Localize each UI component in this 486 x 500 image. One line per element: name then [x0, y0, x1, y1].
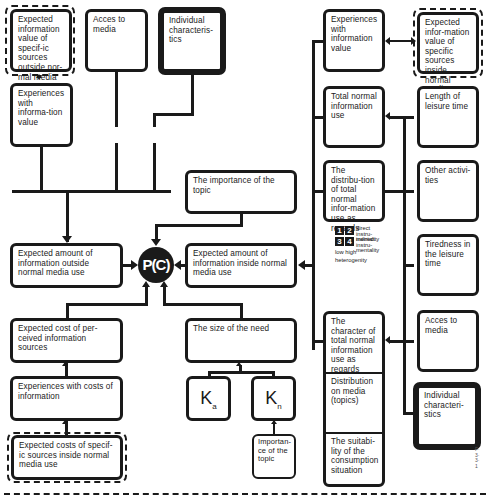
node-label: Tiredness in the leisure time: [425, 240, 471, 268]
node-character-total: The character of total normal informatio…: [323, 311, 385, 487]
connector-line: [312, 40, 323, 43]
arrow-left-icon: [298, 260, 305, 270]
node-expected-amount-inside: Expected amount of information inside no…: [185, 243, 297, 288]
legend-row-indirect: 34indirect instru-mentality: [335, 237, 386, 248]
connector-trunk: [403, 340, 406, 414]
node-label: Experiences with costs of information: [18, 382, 113, 401]
node-experiences-costs: Experiences with costs of information: [10, 376, 123, 421]
legend-square-3: 3: [335, 237, 344, 246]
bottom-dashed-rule: [4, 493, 486, 495]
connector-line: [66, 303, 148, 306]
horizontal-bar: [12, 190, 171, 193]
node-label: Expected infor-mation value of specific …: [425, 18, 469, 94]
kn-label: K: [265, 388, 277, 408]
node-importance-of-topic: The importance of the topic: [185, 170, 297, 214]
node-expected-info-value-outside: Expected information value of specif-ic …: [10, 9, 72, 72]
kn-subscript: n: [277, 402, 281, 411]
ka-label: K: [200, 388, 212, 408]
connector-line: [312, 116, 323, 119]
node-acces-to-media-top: Acces to media: [85, 9, 148, 72]
connector-line: [208, 371, 275, 374]
connector-line: [66, 190, 69, 242]
connector-line: [155, 224, 158, 240]
node-individual-characteristics-right: Individual characteri-stics: [413, 382, 481, 450]
connector-line: [163, 287, 166, 303]
node-label: The distribu-tion of total normal infor-…: [331, 166, 375, 233]
node-length-leisure: Length of leisure time: [417, 86, 479, 148]
node-distribution-total: The distribu-tion of total normal infor-…: [323, 160, 385, 222]
connector-line: [385, 190, 414, 193]
node-label: Expected amount of information inside no…: [193, 249, 287, 277]
node-label: Expected amount of information outside n…: [18, 249, 93, 277]
node-expected-info-value-inside: Expected infor-mation value of specific …: [417, 12, 479, 74]
connector-line: [66, 303, 69, 318]
arrow-right-icon: [131, 260, 138, 270]
node-kn: Kn: [251, 376, 296, 421]
legend-square-2: 2: [345, 226, 354, 235]
node-label: Acces to media: [93, 15, 125, 34]
connector-line: [191, 75, 194, 115]
legend-square-1: 1: [335, 226, 344, 235]
node-total-normal-info-use: Total normal information use: [323, 86, 385, 148]
node-importance-small: Importan-ce of the topic: [252, 434, 296, 479]
connector-line: [390, 340, 414, 343]
node-label: Individual characteris-tics: [169, 16, 213, 44]
arrow-left-icon: [385, 37, 390, 45]
node-label: Other activi-ties: [425, 166, 470, 185]
connector-line: [163, 303, 242, 306]
node-ka: Ka: [186, 376, 231, 421]
node-label: Length of leisure time: [425, 92, 468, 111]
node-experiences-info-value-right: Experiences with information value: [323, 9, 385, 72]
arrow-up-icon: [36, 74, 42, 78]
node-label: Individual characteri-stics: [424, 391, 464, 419]
arrow-up-icon: [271, 420, 277, 424]
node-label: Experiences with informa-tion value: [18, 89, 64, 127]
connector-line: [305, 264, 313, 267]
node-expected-cost-perceived: Expected cost of per-ceived information …: [10, 318, 123, 363]
node-expected-amount-outside: Expected amount of information outside n…: [10, 243, 123, 288]
node-size-of-need: The size of the need: [185, 318, 297, 363]
arrow-left-icon: [385, 336, 390, 344]
node-label: Total normal information use: [331, 92, 377, 120]
node-label: The importance of the topic: [193, 176, 275, 195]
node-label: Expected cost of per-ceived information …: [18, 324, 97, 352]
node-tiredness: Tiredness in the leisure time: [417, 234, 479, 296]
arrow-down-icon: [151, 239, 161, 246]
node-acces-to-media-right: Acces to media: [417, 310, 479, 372]
arrow-up-icon: [62, 420, 68, 424]
node-label: Acces to media: [425, 316, 457, 335]
node-label: Importan-ce of the topic: [258, 437, 291, 463]
legend-square-4: 4: [345, 237, 354, 246]
node-label: The size of the need: [193, 324, 269, 333]
connector-line: [40, 147, 43, 190]
arrow-left-icon: [385, 112, 390, 120]
figure-side-note: F·3·3·1: [475, 447, 481, 469]
legend-label-indirect: indirect instru-mentality: [356, 237, 386, 254]
connector-line: [115, 143, 118, 190]
connector-line: [153, 113, 156, 127]
connector-line: [145, 287, 148, 303]
arrow-up-icon: [62, 362, 68, 366]
node-label: The character of total normal informatio…: [331, 317, 375, 374]
connector-line: [390, 116, 414, 119]
node-expected-costs-inside: Expected costs of specif-ic sources insi…: [11, 435, 123, 480]
node-experiences-info-value-left: Experiences with informa-tion value: [10, 83, 73, 147]
connector-line: [153, 113, 194, 116]
ka-subscript: a: [212, 402, 216, 411]
segment-distribution-media: Distribution on media (topics): [326, 374, 382, 432]
connector-line: [312, 190, 323, 193]
node-label: Distribution on media (topics): [331, 377, 373, 405]
connector-line: [153, 143, 156, 190]
arrow-down-icon: [62, 236, 72, 243]
connector-line: [312, 340, 323, 343]
center-node-pc: P(C): [138, 247, 174, 283]
connector-line: [240, 303, 243, 318]
node-individual-characteristics-top: Individual characteris-tics: [158, 7, 226, 75]
connector-line: [403, 264, 414, 267]
connector-trunk: [403, 116, 406, 348]
node-label: Experiences with information value: [331, 15, 377, 53]
connector-line: [115, 72, 118, 127]
legend-axis-caption: heterogenity: [335, 257, 386, 264]
node-label: The suitabi-lity of the consumption situ…: [331, 437, 379, 475]
node-label: Expected costs of specif-ic sources insi…: [19, 441, 113, 469]
